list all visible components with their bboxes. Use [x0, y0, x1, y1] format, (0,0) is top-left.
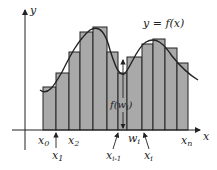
riemann-sum-diagram: y x y = f(x) f(wi) x0 x1 x2 xi-1 wi xi x… [0, 0, 217, 170]
arrow-xim1 [113, 133, 118, 149]
rectangle-4 [80, 32, 93, 130]
rectangle-5 [93, 27, 107, 130]
label-xn: xn [181, 134, 192, 148]
x-axis-label: x [203, 130, 210, 143]
label-xi: xi [144, 149, 153, 163]
rectangle-2 [56, 73, 69, 130]
label-x1: x1 [52, 149, 63, 163]
rectangle-9 [142, 44, 153, 130]
label-x-i-minus-1: xi-1 [106, 149, 121, 163]
label-wi: wi [128, 132, 140, 146]
curve-label: y = f(x) [142, 17, 184, 30]
y-axis-label: y [29, 4, 37, 17]
rectangle-6 [107, 52, 118, 130]
rectangle-1 [43, 87, 56, 130]
rectangle-10 [153, 39, 165, 130]
label-x0: x0 [38, 134, 49, 148]
label-x2: x2 [68, 134, 79, 148]
rectangle-12 [177, 63, 188, 130]
rectangle-3 [69, 52, 80, 130]
arrow-xi [144, 133, 149, 149]
rectangles [43, 27, 188, 130]
